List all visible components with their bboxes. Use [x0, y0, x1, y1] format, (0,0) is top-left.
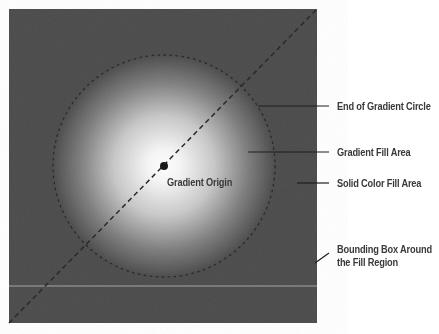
- label-gradient-fill-area: Gradient Fill Area: [337, 146, 411, 159]
- leader-bounding-box: [315, 253, 329, 263]
- label-solid-color-fill-area: Solid Color Fill Area: [337, 177, 421, 190]
- label-bounding-box-line1: Bounding Box Around: [337, 243, 432, 256]
- label-gradient-origin: Gradient Origin: [167, 176, 232, 189]
- label-bounding-box-line2: the Fill Region: [337, 256, 398, 269]
- gradient-origin-dot: [160, 162, 168, 170]
- radial-gradient-diagram: [0, 0, 439, 334]
- label-end-of-gradient-circle: End of Gradient Circle: [337, 100, 431, 113]
